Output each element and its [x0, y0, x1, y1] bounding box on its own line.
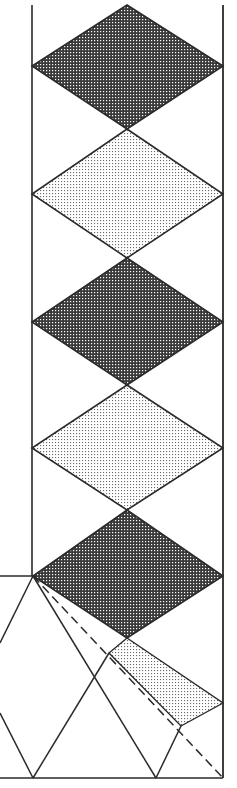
- rhombus-light-r2: [32, 129, 223, 258]
- rhombus-dark-r3: [32, 258, 223, 385]
- line-v-base-right: [156, 726, 181, 778]
- rhombi-group: [32, 5, 223, 638]
- rhombus-dark-r1: [32, 5, 223, 129]
- line-fan-left-up-from-base: [0, 713, 33, 778]
- diagram-canvas: [0, 0, 237, 788]
- rhombus-strip-diagram: [0, 0, 237, 788]
- light-parallelogram-group: [109, 638, 223, 726]
- light-parallelogram: [109, 638, 223, 726]
- line-v-base-left: [33, 653, 109, 778]
- line-fan-left-down: [0, 576, 33, 643]
- rhombus-dark-r5: [33, 510, 223, 638]
- rhombus-light-r4: [32, 385, 223, 510]
